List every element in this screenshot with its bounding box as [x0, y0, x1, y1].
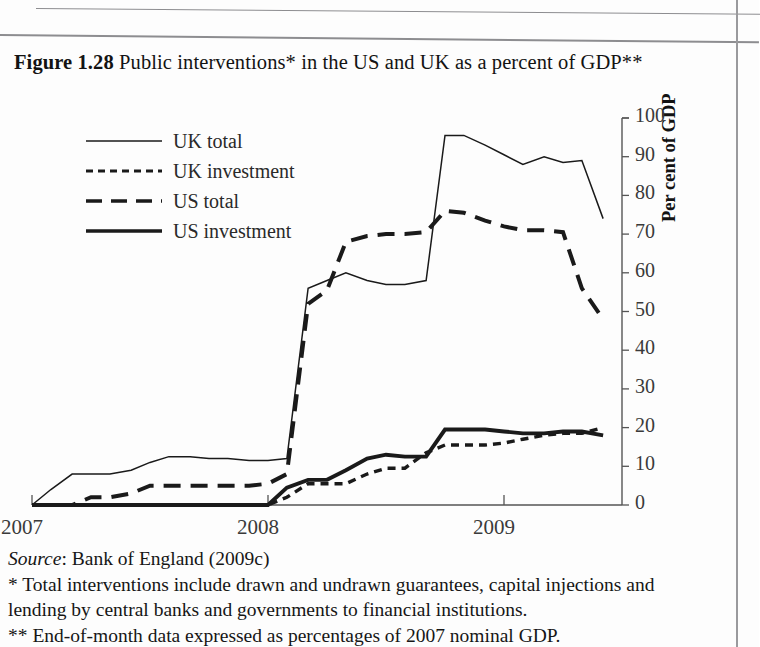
- y-tick-label-80: 80: [635, 181, 655, 204]
- y-tick-label-50: 50: [635, 298, 655, 321]
- chart-legend: UK total UK investment US total US inves…: [86, 126, 346, 246]
- source-text: : Bank of England (2009c): [61, 548, 269, 569]
- legend-item-us-total: US total: [86, 186, 346, 216]
- y-tick-label-10: 10: [635, 452, 655, 475]
- source-word: Source: [8, 548, 61, 569]
- figure-caption: Figure 1.28 Public interventions* in the…: [14, 48, 730, 76]
- legend-key-us-investment-icon: [86, 224, 162, 238]
- y-tick-label-70: 70: [635, 220, 655, 243]
- series-line-uk-investment: [32, 428, 603, 505]
- series-line-us-investment: [32, 430, 603, 505]
- scan-artifact-line-top: [36, 8, 760, 15]
- scan-artifact-line-second: [0, 34, 759, 43]
- figure-notes: Source: Bank of England (2009c) * Total …: [8, 546, 730, 647]
- x-tick-label-2009: 2009: [473, 515, 515, 540]
- note-asterisk-line2: lending by central banks and governments…: [8, 597, 730, 623]
- note-double-asterisk: ** End-of-month data expressed as percen…: [8, 623, 730, 647]
- legend-item-uk-total: UK total: [86, 126, 346, 156]
- y-tick-label-100: 100: [635, 104, 665, 127]
- y-tick-label-90: 90: [635, 143, 655, 166]
- legend-item-us-investment: US investment: [86, 216, 346, 246]
- y-tick-label-40: 40: [635, 336, 655, 359]
- legend-key-uk-investment-icon: [86, 164, 162, 178]
- scan-artifact-right-edge: [736, 0, 738, 647]
- source-line: Source: Bank of England (2009c): [8, 546, 730, 572]
- figure-number: Figure 1.28: [14, 51, 114, 73]
- note-asterisk-line1: * Total interventions include drawn and …: [8, 572, 730, 598]
- legend-key-us-total-icon: [86, 194, 162, 208]
- legend-key-uk-total-icon: [86, 134, 162, 148]
- legend-label-uk-total: UK total: [173, 130, 242, 153]
- y-tick-label-60: 60: [635, 259, 655, 282]
- x-tick-label-2008: 2008: [237, 515, 279, 540]
- legend-label-us-total: US total: [173, 190, 239, 213]
- y-tick-label-30: 30: [635, 375, 655, 398]
- series-line-us-total: [32, 211, 603, 505]
- legend-label-uk-investment: UK investment: [173, 160, 295, 183]
- figure-title: Public interventions* in the US and UK a…: [119, 51, 643, 73]
- x-tick-label-2007: 2007: [1, 515, 43, 540]
- y-tick-label-20: 20: [635, 414, 655, 437]
- legend-item-uk-investment: UK investment: [86, 156, 346, 186]
- legend-label-us-investment: US investment: [173, 220, 291, 243]
- y-tick-label-0: 0: [635, 491, 645, 514]
